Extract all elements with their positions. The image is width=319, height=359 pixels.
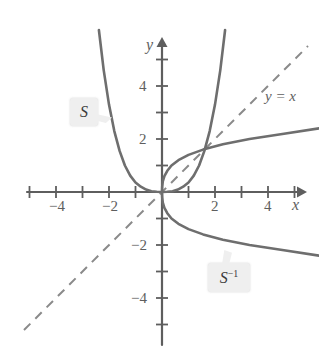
- callout-s: S: [70, 98, 98, 126]
- identity-line-label: y = x: [265, 88, 296, 105]
- callout-s-text: S: [80, 103, 88, 121]
- y-tick-label-4: 4: [139, 78, 147, 95]
- y-tick-label-2: 2: [139, 131, 147, 148]
- x-axis-label: x: [292, 196, 299, 214]
- callout-s-inverse-base: S: [220, 269, 228, 286]
- y-axis-arrowhead: [157, 37, 168, 47]
- callout-s-inverse: S−1: [208, 263, 250, 292]
- plot-canvas: [0, 0, 319, 359]
- callout-s-inverse-text: S−1: [220, 269, 239, 287]
- x-tick-label--2: −2: [102, 198, 118, 215]
- y-axis-label: y: [146, 36, 153, 54]
- x-tick-label-2: 2: [211, 198, 219, 215]
- curve-s-inverse-upper: [162, 128, 319, 192]
- x-tick-label--4: −4: [49, 198, 65, 215]
- x-tick-label-4: 4: [264, 198, 272, 215]
- callout-s-inverse-exponent: −1: [228, 267, 239, 278]
- y-tick-label--4: −4: [131, 290, 147, 307]
- inverse-function-graph: −4 −2 2 4 4 2 −2 −4 x y y = x S S−1: [0, 0, 319, 359]
- y-tick-label--2: −2: [131, 237, 147, 254]
